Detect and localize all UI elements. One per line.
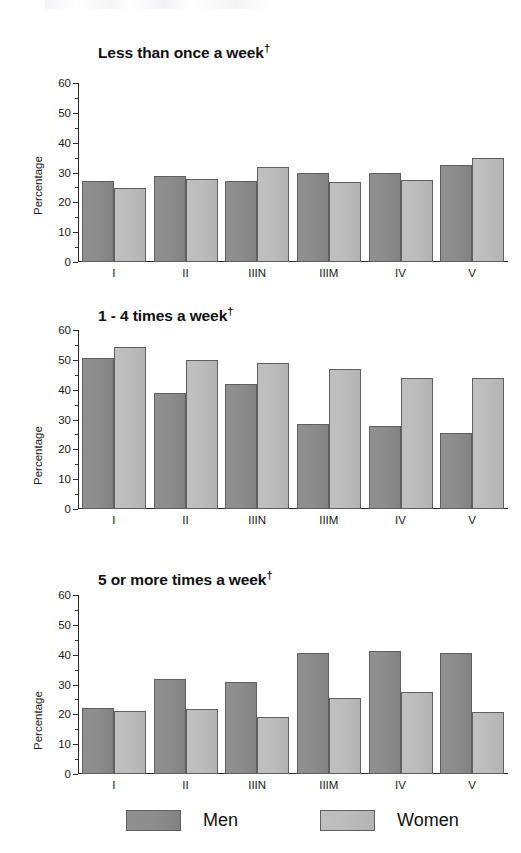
y-minor-tick-mark [75, 464, 78, 465]
y-tick-mark [73, 143, 78, 144]
legend-label-women: Women [397, 810, 459, 831]
y-minor-tick-mark [75, 405, 78, 406]
y-tick-mark [73, 262, 78, 263]
y-tick-mark [73, 625, 78, 626]
y-tick-mark [73, 113, 78, 114]
y-minor-tick-mark [75, 345, 78, 346]
y-tick-label: 50 [58, 354, 71, 366]
bar-men-iv [369, 426, 401, 509]
bar-men-ii [154, 393, 186, 509]
y-minor-tick-mark [75, 128, 78, 129]
y-tick-mark [73, 509, 78, 510]
bar-men-i [82, 358, 114, 509]
bar-women-v [472, 158, 504, 262]
y-minor-tick-mark [75, 494, 78, 495]
y-tick-mark [73, 685, 78, 686]
chart-title: Less than once a week† [98, 42, 270, 62]
plot-area: 0102030405060IIIIIINIIIMIVV [78, 83, 508, 262]
bar-men-iiim [297, 173, 329, 262]
y-tick-label: 20 [58, 443, 71, 455]
bar-women-iiin [257, 363, 289, 509]
y-tick-mark [73, 595, 78, 596]
bar-men-v [440, 433, 472, 509]
bar-men-v [440, 165, 472, 262]
y-minor-tick-mark [75, 670, 78, 671]
y-tick-mark [73, 420, 78, 421]
chart-title: 1 - 4 times a week† [98, 305, 233, 325]
y-tick-mark [73, 479, 78, 480]
y-tick-label: 0 [65, 256, 71, 268]
bar-group: IV [369, 330, 433, 509]
bar-group: I [82, 83, 146, 262]
y-tick-label: 40 [58, 649, 71, 661]
chart-title: 5 or more times a week† [98, 569, 272, 589]
y-tick-label: 40 [58, 137, 71, 149]
y-minor-tick-mark [75, 158, 78, 159]
y-tick-label: 40 [58, 384, 71, 396]
y-tick-label: 60 [58, 589, 71, 601]
y-tick-label: 30 [58, 679, 71, 691]
chart-panel-less-than-once-a-week: Less than once a week† Percentage 010203… [0, 0, 521, 285]
y-tick-label: 10 [58, 226, 71, 238]
bar-women-iiin [257, 167, 289, 262]
x-axis-category-label: IIIN [225, 267, 289, 279]
bar-men-v [440, 653, 472, 774]
y-minor-tick-mark [75, 729, 78, 730]
women-swatch-icon [320, 810, 375, 831]
bar-group: II [154, 330, 218, 509]
bar-men-iiim [297, 424, 329, 509]
y-tick-label: 50 [58, 619, 71, 631]
x-axis-category-label: I [82, 779, 146, 791]
y-tick-mark [73, 449, 78, 450]
x-axis-category-label: II [154, 779, 218, 791]
y-tick-mark [73, 390, 78, 391]
bar-women-i [114, 347, 146, 509]
y-tick-mark [73, 714, 78, 715]
x-axis-category-label: IIIM [297, 779, 361, 791]
y-tick-label: 60 [58, 324, 71, 336]
bar-women-ii [186, 360, 218, 509]
bar-men-iiim [297, 653, 329, 774]
x-axis-category-label: IV [369, 267, 433, 279]
bar-men-iiin [225, 181, 257, 262]
bar-women-ii [186, 709, 218, 774]
chart-title-text: 5 or more times a week [98, 571, 266, 588]
y-minor-tick-mark [75, 640, 78, 641]
legend-item-women: Women [320, 810, 459, 831]
x-axis-category-label: II [154, 267, 218, 279]
bar-group: II [154, 595, 218, 774]
x-axis-category-label: V [440, 779, 504, 791]
y-axis-label: Percentage [32, 426, 44, 485]
bar-men-iv [369, 173, 401, 262]
y-minor-tick-mark [75, 434, 78, 435]
bar-women-iv [401, 692, 433, 774]
y-axis-line [78, 595, 79, 774]
y-tick-label: 10 [58, 473, 71, 485]
legend-item-men: Men [126, 810, 238, 831]
y-tick-mark [73, 774, 78, 775]
bar-group: IIIM [297, 83, 361, 262]
chart-panel-1-4-times-a-week: 1 - 4 times a week† Percentage 010203040… [0, 285, 521, 525]
plot-area: 0102030405060IIIIIINIIIMIVV [78, 330, 508, 509]
figure-social-class-charts: Less than once a week† Percentage 010203… [0, 0, 521, 853]
y-axis-line [78, 83, 79, 262]
y-tick-mark [73, 232, 78, 233]
y-tick-label: 60 [58, 77, 71, 89]
bar-group: IIIN [225, 595, 289, 774]
bar-women-i [114, 188, 146, 262]
y-tick-mark [73, 173, 78, 174]
bar-group: I [82, 330, 146, 509]
plot-area: 0102030405060IIIIIINIIIMIVV [78, 595, 508, 774]
bar-group: V [440, 83, 504, 262]
y-minor-tick-mark [75, 247, 78, 248]
y-tick-mark [73, 202, 78, 203]
bar-women-iv [401, 180, 433, 262]
y-tick-label: 30 [58, 414, 71, 426]
bar-men-i [82, 181, 114, 262]
bar-women-i [114, 711, 146, 774]
y-axis-label: Percentage [32, 691, 44, 750]
y-tick-label: 50 [58, 107, 71, 119]
dagger-footnote-marker: † [264, 42, 270, 54]
bar-men-iiin [225, 682, 257, 774]
bar-men-i [82, 708, 114, 774]
